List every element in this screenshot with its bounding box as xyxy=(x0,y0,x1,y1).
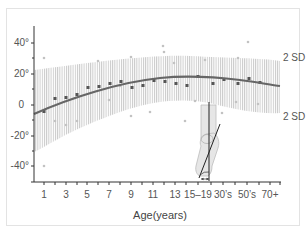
x-tick-label: 13 xyxy=(169,189,181,200)
x-tick-labels: 1 3 5 7 9 11 13 15–19 30’s 50’s 70+ xyxy=(41,189,278,200)
y-tick-label: 0 xyxy=(18,99,24,110)
x-axis xyxy=(31,182,281,185)
x-tick-label: 1 xyxy=(41,189,47,200)
y-tick-label: -40° xyxy=(11,160,29,171)
x-tick-label: 9 xyxy=(128,189,134,200)
x-tick-label: 7 xyxy=(106,189,112,200)
y-tick-label: 40° xyxy=(14,37,29,48)
x-tick-label: 5 xyxy=(84,189,90,200)
x-tick-label: 70+ xyxy=(262,189,279,200)
x-tick-label: 3 xyxy=(63,189,69,200)
x-tick-label: 30’s xyxy=(214,189,232,200)
forearm-angle-illustration-icon xyxy=(196,102,220,181)
lower-sd-label: 2 SD xyxy=(283,111,305,122)
upper-sd-label: 2 SD xyxy=(283,52,305,63)
x-tick-label: 11 xyxy=(148,189,159,200)
x-axis-title: Age(years) xyxy=(133,209,187,221)
y-tick-label: -20° xyxy=(11,130,29,141)
sd-band xyxy=(34,56,280,152)
x-tick-label: 15–19 xyxy=(184,189,212,200)
chart-svg: 40° 20° 0 -20° -40° 1 3 5 7 9 xyxy=(0,0,307,234)
y-axis xyxy=(31,26,34,182)
y-tick-labels: 40° 20° 0 -20° -40° xyxy=(11,37,29,171)
x-tick-label: 50’s xyxy=(238,189,256,200)
y-tick-label: 20° xyxy=(14,68,29,79)
